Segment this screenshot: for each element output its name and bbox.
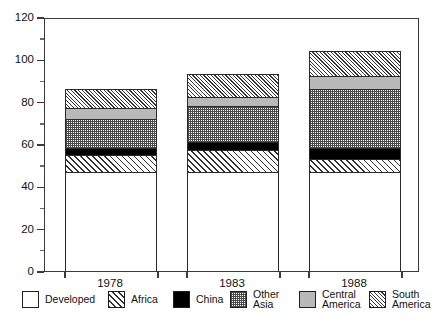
y-axis-label-20: 20 <box>21 224 34 235</box>
segment-1988-other-asia <box>309 89 401 148</box>
segment-1988-south-america <box>309 51 401 76</box>
legend-label-china: China <box>196 294 223 305</box>
segment-1978-central-america <box>65 108 157 119</box>
central-america-swatch-icon <box>299 291 316 308</box>
legend-item-developed: Developed <box>22 285 95 313</box>
stacked-bar-chart: 120 100 80 60 40 20 0 <box>0 0 434 321</box>
segment-1978-africa <box>65 155 157 172</box>
y-tick-20 <box>37 229 44 231</box>
segment-1983-developed <box>187 172 279 272</box>
x-tick-1983-right <box>279 271 281 278</box>
segment-1983-china <box>187 142 279 151</box>
legend-item-other-asia: Other Asia <box>230 285 279 313</box>
segment-1988-central-america <box>309 76 401 89</box>
segment-1983-south-america <box>187 74 279 97</box>
y-axis-label-60: 60 <box>21 139 34 150</box>
segment-1978-south-america <box>65 89 157 108</box>
y-axis-label-40: 40 <box>21 181 34 192</box>
china-swatch-icon <box>173 291 190 308</box>
legend: Developed Africa China Other Asia Centra… <box>22 285 422 317</box>
x-tick-1983-left <box>186 271 188 278</box>
legend-label-central-america: Central America <box>322 289 361 310</box>
y-axis-label-100: 100 <box>15 54 34 65</box>
segment-1983-other-asia <box>187 106 279 142</box>
other-asia-swatch-icon <box>230 291 247 308</box>
africa-swatch-icon <box>108 291 125 308</box>
legend-item-china: China <box>173 285 223 313</box>
legend-item-central-america: Central America <box>299 285 361 313</box>
legend-item-africa: Africa <box>108 285 158 313</box>
y-axis: 120 100 80 60 40 20 0 <box>0 0 44 321</box>
legend-item-south-america: South America <box>369 285 431 313</box>
y-tick-40 <box>37 187 44 189</box>
segment-1978-china <box>65 148 157 154</box>
legend-label-south-america: South America <box>392 289 431 310</box>
x-tick-1988-left <box>308 271 310 278</box>
segment-1983-africa <box>187 150 279 171</box>
south-america-swatch-icon <box>369 291 386 308</box>
y-tick-0 <box>37 271 44 273</box>
y-tick-60 <box>37 144 44 146</box>
x-tick-1978-right <box>157 271 159 278</box>
segment-1988-china <box>309 148 401 159</box>
y-axis-label-80: 80 <box>21 97 34 108</box>
x-tick-1978-left <box>64 271 66 278</box>
segment-1988-africa <box>309 159 401 172</box>
y-tick-80 <box>37 102 44 104</box>
y-tick-100 <box>37 60 44 62</box>
x-tick-1988-right <box>401 271 403 278</box>
legend-label-africa: Africa <box>131 294 158 305</box>
legend-label-other-asia: Other Asia <box>253 289 279 310</box>
developed-swatch-icon <box>22 291 39 308</box>
segment-1983-central-america <box>187 97 279 106</box>
plot-area <box>44 18 419 272</box>
segment-1978-other-asia <box>65 119 157 149</box>
y-axis-label-120: 120 <box>15 12 34 23</box>
segment-1988-developed <box>309 172 401 272</box>
y-tick-120 <box>37 17 44 19</box>
segment-1978-developed <box>65 172 157 272</box>
y-axis-label-0: 0 <box>28 266 34 277</box>
legend-label-developed: Developed <box>45 294 95 305</box>
